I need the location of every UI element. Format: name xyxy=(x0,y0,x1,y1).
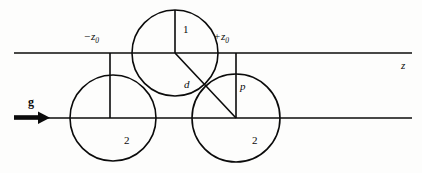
point-label-p: p xyxy=(240,81,246,92)
plus-sign: + xyxy=(214,30,221,42)
figure-canvas: −z0 +z0 z g 1 2 2 d p xyxy=(0,0,422,173)
sphere-label-2-right: 2 xyxy=(252,135,258,146)
minus-sign: − xyxy=(84,30,91,42)
distance-label-d: d xyxy=(184,79,190,90)
minus-z0-subscript: 0 xyxy=(95,36,99,45)
sphere-label-1: 1 xyxy=(183,24,189,35)
axis-label-z: z xyxy=(401,60,405,71)
diagram-svg xyxy=(0,0,422,173)
plus-z0-subscript: 0 xyxy=(225,36,229,45)
label-minus-z0: −z0 xyxy=(84,31,99,45)
label-plus-z0: +z0 xyxy=(214,31,229,45)
sphere-label-2-left: 2 xyxy=(124,135,130,146)
gravity-label-g: g xyxy=(28,96,34,108)
gravity-arrow xyxy=(14,112,50,125)
